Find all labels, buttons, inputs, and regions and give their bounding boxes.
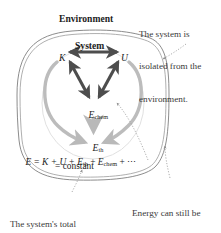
dark-arrow-K-Echem	[70, 62, 89, 97]
dark-arrow-U-Echem	[99, 62, 118, 97]
equation-sub-chem: chem	[104, 160, 118, 167]
annotation-top-right-line2: isolated from the	[139, 61, 201, 72]
equation-ellipsis: ⋯	[127, 157, 136, 167]
kinetic-energy-label: K	[59, 52, 65, 63]
annotation-bottom-left: The system's total energy E is conserved…	[10, 197, 93, 233]
annotation-bottom-left-line1: The system's total	[10, 219, 93, 230]
annotation-bottom-right: Energy can still be transformed within t…	[132, 186, 202, 233]
annotation-top-right: The system is isolated from the environm…	[139, 7, 201, 126]
chemical-energy-subscript: chem	[94, 114, 108, 121]
environment-label: Environment	[59, 13, 113, 24]
system-label: System	[75, 40, 104, 51]
annotation-top-right-line3: environment.	[139, 94, 201, 105]
equation-plus-2: +	[117, 157, 127, 167]
figure-canvas: Environment System K U Echem Eth E = K +…	[0, 0, 221, 233]
potential-energy-label: U	[121, 52, 128, 63]
annotation-top-right-line1: The system is	[139, 29, 201, 40]
chemical-energy-label: Echem	[79, 98, 108, 132]
annotation-bottom-right-line1: Energy can still be	[132, 208, 202, 219]
conservation-equation-line2: = constant	[55, 161, 94, 172]
leader-bottom-right-to-boundary	[165, 146, 170, 178]
